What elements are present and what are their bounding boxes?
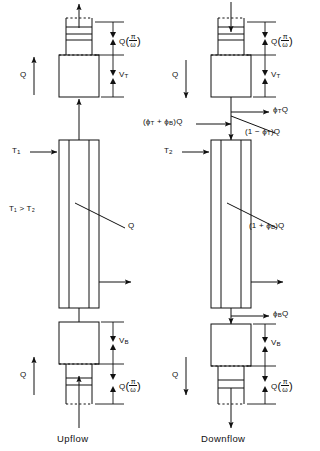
downflow-bottom-junction — [231, 308, 269, 324]
upflow-caption: Upflow — [57, 434, 88, 444]
upflow-bottom-flow-label: Q — [20, 371, 26, 379]
upflow-top-capillary-flow-label: Q(πω) — [119, 33, 141, 48]
upflow-column-flow-label: Q — [128, 222, 134, 230]
upflow-bottom-reservoir — [59, 322, 99, 364]
upflow-top-reservoir — [59, 40, 99, 97]
downflow-top-capillary-flow-label: Q(πω) — [271, 33, 293, 48]
downflow-column-flow-label: (1 + ϕB)Q — [249, 222, 285, 231]
downflow-top-capillary — [218, 2, 244, 40]
downflow-top-flow-label: Q — [172, 71, 178, 79]
downflow-bottom-side-stream-label: ϕBQ — [273, 310, 288, 319]
downflow-bottom-volume-label: VB — [271, 339, 281, 348]
upflow-bottom-volume-label: VB — [119, 337, 129, 346]
upflow-top-flow-label: Q — [20, 71, 26, 79]
downflow-bottom-capillary — [218, 366, 244, 428]
downflow-bottom-flow-label: Q — [172, 371, 178, 379]
upflow-bottom-capillary — [66, 364, 92, 428]
downflow-caption: Downflow — [201, 434, 245, 444]
downflow-top-reservoir — [211, 40, 251, 97]
upflow-bottom-capillary-flow-label: Q(πω) — [119, 378, 141, 393]
upflow-temperature-relation: T₁ > T₂ — [9, 205, 35, 213]
downflow-column — [211, 140, 251, 308]
upflow-column-leader — [75, 203, 125, 228]
downflow-top-side-stream-label: ϕTQ — [273, 106, 288, 115]
downflow-bottom-reservoir — [211, 324, 251, 366]
figure-canvas: Q(πω) VT Q T1 T₁ > T₂ Q VB Q(πω) Q Upflo… — [0, 0, 320, 451]
downflow-column-inlet-label: (1 − ϕT)Q — [245, 128, 280, 137]
upflow-top-capillary — [66, 4, 92, 40]
downflow-bottom-capillary-flow-label: Q(πω) — [271, 378, 293, 393]
downflow-combined-feed-label: (ϕT + ϕB)Q — [143, 118, 183, 127]
upflow-column — [59, 140, 99, 308]
upflow-top-volume-label: VT — [119, 71, 129, 80]
downflow-top-volume-label: VT — [271, 71, 281, 80]
downflow-cold-temp-label: T2 — [164, 147, 173, 156]
upflow-hot-temp-label: T1 — [12, 147, 21, 156]
